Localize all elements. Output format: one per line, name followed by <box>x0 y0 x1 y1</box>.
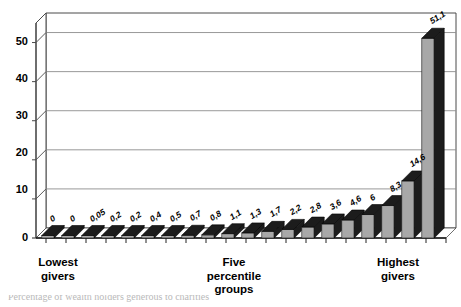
figure-caption-text: Percentage of wealth holders generous to… <box>8 295 209 302</box>
y-tick-label-40: 40 <box>2 73 28 84</box>
x-caption-highest-givers: Highest givers <box>352 256 444 283</box>
y-tick-label-20: 20 <box>2 147 28 158</box>
x-caption-lowest-givers: Lowest givers <box>12 256 104 283</box>
bar <box>422 28 444 238</box>
chart-figure: 50 40 30 20 10 0 000,050,20,20,40,50,70,… <box>0 0 461 307</box>
bar <box>402 171 424 238</box>
figure-caption-strip: Percentage of wealth holders generous to… <box>0 295 461 307</box>
bar <box>382 196 404 238</box>
y-tick-label-0: 0 <box>2 232 28 243</box>
y-tick-label-10: 10 <box>2 184 28 195</box>
y-tick-label-50: 50 <box>2 36 28 47</box>
x-axis-ticks <box>46 238 446 243</box>
y-tick-label-30: 30 <box>2 110 28 121</box>
x-caption-five-percentile-groups: Five percentile groups <box>178 256 290 297</box>
